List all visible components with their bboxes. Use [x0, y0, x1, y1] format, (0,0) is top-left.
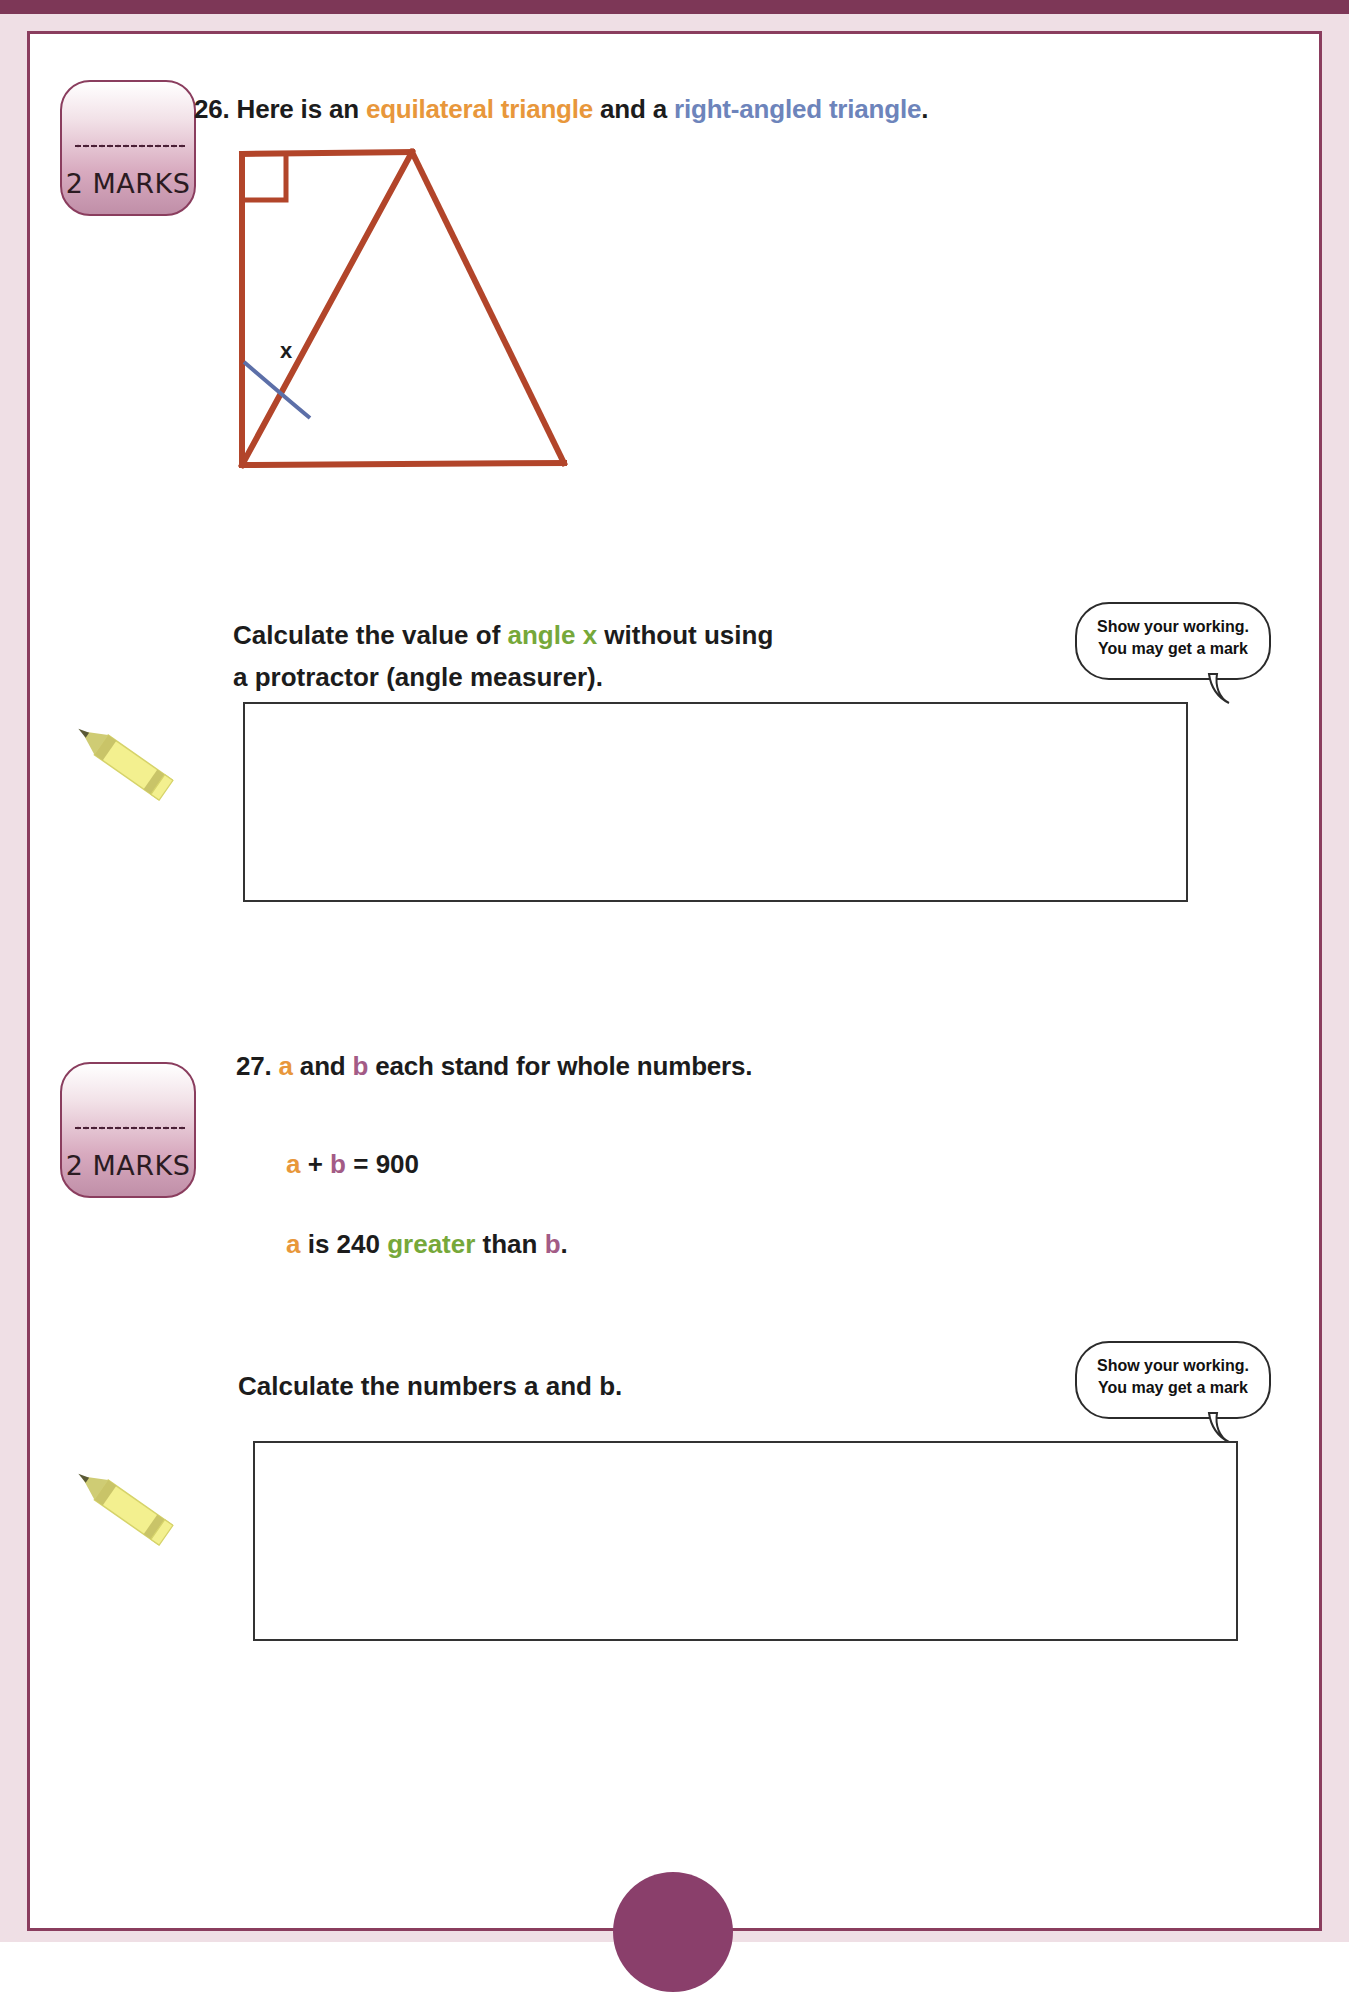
speech-bubble-tail-q26 [1205, 672, 1239, 706]
question-27-statement: a is 240 greater than b. [286, 1229, 568, 1260]
q26-term-equilateral: equilateral triangle [366, 94, 593, 124]
speech-bubble-q26: Show your working. You may get a mark [1075, 602, 1271, 680]
q27-st-b: b [545, 1229, 561, 1259]
q26-heading-b: and a [593, 94, 674, 124]
page-right-margin [1322, 14, 1349, 1942]
question-27-equation: a + b = 900 [286, 1149, 419, 1180]
speech-bubble-tail-q27 [1205, 1411, 1239, 1445]
q27-st-mid2: than [475, 1229, 544, 1259]
q27-eq-plus: + [300, 1149, 330, 1179]
q27-eq-a: a [286, 1149, 300, 1179]
pencil-icon-q27 [55, 1450, 205, 1570]
q27-var-b: b [353, 1051, 369, 1081]
q27-heading-b: each stand for whole numbers. [368, 1051, 752, 1081]
page-bottom-blob [613, 1872, 733, 1992]
speech-bubble-q27-text: Show your working. You may get a mark [1077, 1355, 1269, 1399]
marks-dotted-line-q26 [74, 144, 186, 148]
q26-prompt-a: Calculate the value of [233, 620, 508, 650]
marks-label-q27: 2 MARKS [62, 1150, 194, 1181]
q26-prompt-b: without using [597, 620, 773, 650]
answer-box-q26[interactable] [243, 702, 1188, 902]
q27-number: 27. [236, 1051, 279, 1081]
q27-st-period: . [561, 1229, 568, 1259]
marks-badge-q26: 2 MARKS [60, 80, 196, 216]
q27-eq-b: b [330, 1149, 346, 1179]
question-26-prompt-line-2: a protractor (angle measurer). [233, 662, 603, 693]
q27-heading-a: and [293, 1051, 353, 1081]
speech-bubble-q27-line1: Show your working. [1077, 1355, 1269, 1377]
q26-number: 26. [194, 94, 237, 124]
pencil-icon-q26 [55, 705, 205, 825]
marks-badge-q27: 2 MARKS [60, 1062, 196, 1198]
marks-dotted-line-q27 [74, 1126, 186, 1130]
answer-box-q27[interactable] [253, 1441, 1238, 1641]
q26-term-right-angled: right-angled triangle [674, 94, 921, 124]
speech-bubble-q26-line1: Show your working. [1077, 616, 1269, 638]
angle-x-label: x [280, 338, 293, 363]
page-top-bar [0, 0, 1349, 14]
q27-st-mid1: is 240 [300, 1229, 387, 1259]
speech-bubble-q26-line2: You may get a mark [1077, 638, 1269, 660]
marks-label-q26: 2 MARKS [62, 168, 194, 199]
speech-bubble-q27-line2: You may get a mark [1077, 1377, 1269, 1399]
q27-var-a: a [279, 1051, 293, 1081]
q27-eq-value: = 900 [346, 1149, 419, 1179]
speech-bubble-q27: Show your working. You may get a mark [1075, 1341, 1271, 1419]
triangle-diagram: x [214, 130, 634, 490]
q26-term-angle-x: angle x [508, 620, 598, 650]
question-26-prompt-line-1: Calculate the value of angle x without u… [233, 620, 773, 651]
question-27-prompt: Calculate the numbers a and b. [238, 1371, 622, 1402]
q26-heading-period: . [921, 94, 928, 124]
q27-term-greater: greater [387, 1229, 475, 1259]
question-27-heading: 27. a and b each stand for whole numbers… [236, 1051, 752, 1082]
q26-heading-a: Here is an [237, 94, 366, 124]
q27-st-a: a [286, 1229, 300, 1259]
speech-bubble-q26-text: Show your working. You may get a mark [1077, 616, 1269, 660]
question-26-heading: 26. Here is an equilateral triangle and … [194, 94, 928, 125]
